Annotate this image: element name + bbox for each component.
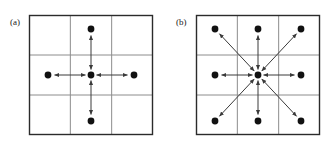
panel-label: (a) <box>10 17 20 27</box>
neighbor-dot-northwest <box>212 26 219 33</box>
neighbor-dot-west <box>45 72 52 79</box>
neighbor-dot-northeast <box>298 26 305 33</box>
center-dot <box>88 72 95 79</box>
neighbor-dot-north <box>255 26 262 33</box>
neighbor-dot-southeast <box>298 118 305 125</box>
panel-label: (b) <box>176 17 187 27</box>
connectivity-figure: (a)(b) <box>0 0 325 149</box>
neighbor-dot-east <box>298 72 305 79</box>
neighbor-dot-west <box>212 72 219 79</box>
neighbor-dot-southwest <box>212 118 219 125</box>
neighbor-dot-north <box>88 26 95 33</box>
neighbor-dot-south <box>88 118 95 125</box>
figure-container: (a)(b) <box>0 0 325 149</box>
center-dot <box>255 72 262 79</box>
neighbor-dot-south <box>255 118 262 125</box>
neighbor-dot-east <box>131 72 138 79</box>
